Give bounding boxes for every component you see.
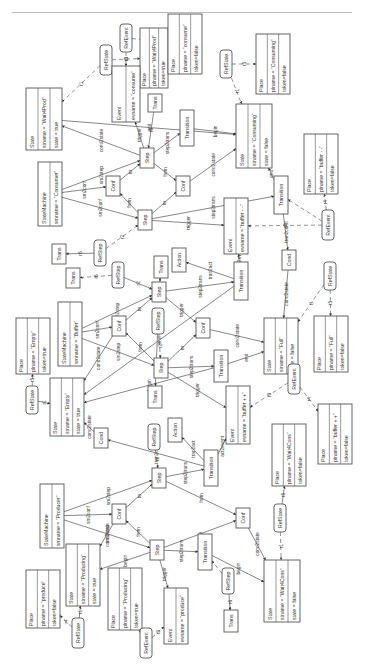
edge-label: r1 [79, 81, 84, 86]
node-conf-p1: Conf [112, 504, 126, 524]
edge-label: to [180, 346, 185, 350]
node-text: Step [144, 153, 150, 164]
node-state-waitcons: Statestname = "Wait4Cons"state = false [264, 560, 300, 622]
node-text: Place [316, 357, 322, 370]
node-place-buffer-minus: Placeplname = "buffer - -"token=false [304, 134, 338, 194]
node-text: smname = "Producer" [55, 495, 61, 546]
edge-label: sm2step [99, 166, 104, 184]
node-text: token=true [41, 347, 47, 372]
node-text: token=true [133, 603, 139, 628]
node-text: Trans [152, 96, 158, 109]
node-text: Event [229, 428, 235, 442]
node-text: plname = "Wait4Cons" [286, 432, 292, 484]
edge-label: cond2state [105, 523, 110, 547]
edge-label: r6 [94, 274, 99, 279]
edge-label: r4 [323, 200, 328, 205]
node-text: plname = "Full" [328, 335, 334, 370]
edge-label: r5 [328, 301, 333, 306]
node-text: plname = "buffer - -" [318, 146, 324, 192]
node-text: State [266, 360, 272, 372]
node-text: RefStep [151, 428, 157, 447]
node-text: StateMachine [41, 192, 47, 224]
edge-label: sm2conf [95, 320, 100, 339]
node-conf-b2: Conf [196, 318, 210, 338]
edge-label: r2 [158, 344, 163, 349]
node-step-b2: Step [152, 468, 166, 488]
node-place-bufferplus: Placeplname = "buffer + +"token=false [318, 404, 352, 464]
node-text: token=false [193, 45, 199, 72]
node-place-consuming: Placeplname = "Consuming"token=false [256, 34, 290, 94]
node-event-bufferminus: Eventevname = "buffer - -" [224, 198, 248, 254]
node-refstep-p: RefStep [222, 568, 234, 594]
node-text: Transition [238, 270, 244, 293]
node-place-produce: Placeplname = "produce"token=false [26, 570, 60, 628]
node-text: Place [28, 613, 34, 626]
edge-label: from [136, 527, 141, 537]
node-text: RefState [29, 390, 35, 410]
edge-label: trigger [179, 303, 184, 317]
edge-label: sm2step [106, 487, 111, 505]
node-refstate-b: RefState [26, 386, 38, 414]
edge-label: step2trans [165, 131, 170, 154]
node-text: plname = "Empty" [30, 331, 36, 372]
edge-link [288, 199, 322, 221]
node-trans-b: Trans [148, 386, 162, 408]
edge-label: to [137, 307, 142, 311]
node-step-top: Step [140, 148, 154, 168]
node-text: Place [274, 471, 280, 484]
node-text: Conf [116, 320, 122, 332]
edge-label: cond2state [255, 532, 260, 556]
node-text: Action [172, 423, 178, 438]
node-text: RefState [277, 508, 283, 528]
node-event-produce: Eventevname = "produce" [164, 588, 188, 644]
node-text: stname = "Consuming" [251, 113, 257, 166]
edge-label: from [127, 198, 132, 208]
node-text: StateMachine [61, 332, 67, 364]
node-text: plname = "buffer + +" [332, 413, 338, 462]
node-action-b: Action [168, 418, 182, 442]
node-text: Event [167, 628, 173, 642]
node-text: evname = "buffer + +" [241, 392, 247, 442]
node-transition-c: Transition [274, 176, 288, 214]
node-place-full: Placeplname = "Full"token=false [314, 316, 348, 372]
node-text: Conf [200, 322, 206, 334]
node-text: plname = "Producing" [122, 578, 128, 628]
edge-label: cond2state [87, 415, 92, 439]
node-text: Place [110, 615, 116, 628]
node-state-producing: Statestname = "Producing"state = true [66, 544, 100, 606]
edge-label: begin [236, 563, 241, 575]
node-text: Place [170, 59, 176, 72]
node-transition-p: Transition [198, 534, 212, 570]
node-place-waitprod: Placeplname = "Wait4Prod"token=true [140, 28, 168, 88]
node-text: Transition [218, 355, 224, 378]
node-refstep-l1: RefStep [94, 240, 106, 266]
node-text: token=false [297, 457, 303, 484]
node-text: Conf [240, 512, 246, 524]
node-place-producing: Placeplname = "Producing"token=true [108, 568, 142, 630]
node-text: Trans [56, 247, 62, 260]
edge-label: to [162, 201, 167, 205]
edge-label: r3 [124, 57, 129, 62]
node-text: State [239, 154, 245, 166]
node-text: Event [227, 238, 233, 252]
node-text: State [52, 422, 58, 434]
edge-label: from [138, 342, 143, 352]
node-text: evname = "consume" [130, 71, 136, 120]
node-text: Cond [98, 432, 104, 445]
node-text: RefEvent [143, 632, 149, 654]
node-text: Transition [202, 541, 208, 564]
edge-label: r3 [267, 393, 272, 398]
edge-label: step2trans [183, 461, 188, 484]
node-place-waitcons: Placeplname = "Wait4Cons"token=false [272, 424, 306, 486]
node-refstate-top2: RefState [220, 50, 232, 78]
node-text: State [267, 608, 273, 620]
node-conf-p2: Conf [236, 508, 250, 528]
node-transition-b: Transition [214, 350, 228, 382]
node-text: Step [156, 287, 162, 298]
node-trans-p: Trans [224, 610, 238, 632]
node-refstate-p2: RefState [274, 504, 286, 532]
edge-label: r1 [279, 544, 284, 549]
node-text: Step [156, 473, 162, 484]
edge-label: r4 [307, 397, 312, 402]
node-transition-b2: Transition [204, 450, 218, 486]
